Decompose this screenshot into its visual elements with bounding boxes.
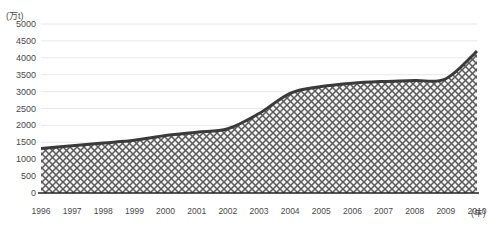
area-chart: (万t) (年) 0500100015002000250030003500400… xyxy=(0,0,504,229)
plot-area xyxy=(0,0,504,229)
area-fill xyxy=(41,51,477,193)
